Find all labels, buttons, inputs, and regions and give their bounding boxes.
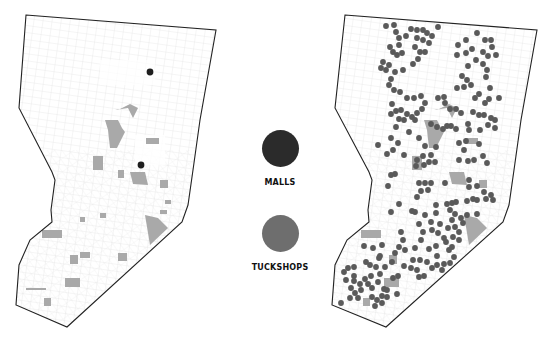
malls-map (0, 0, 230, 340)
legend-label-malls: MALLS (230, 178, 330, 187)
tuckshops-map (319, 0, 551, 340)
mall-marker (138, 162, 145, 169)
street-network (319, 0, 551, 340)
mall-dot-icon (262, 130, 299, 167)
legend-item-tuckshops: TUCKSHOPS (230, 215, 330, 272)
legend-item-malls: MALLS (230, 130, 330, 187)
mall-marker (147, 69, 154, 76)
street-network (0, 0, 230, 340)
legend-label-tuckshops: TUCKSHOPS (230, 263, 330, 272)
tuckshop-dot-icon (262, 215, 299, 252)
